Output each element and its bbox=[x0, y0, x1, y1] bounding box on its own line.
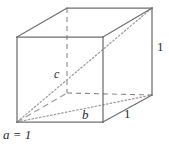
interior-diagonal-group bbox=[17, 93, 67, 122]
edge-top-right-receding bbox=[103, 8, 152, 37]
cuboid-drawing bbox=[0, 0, 169, 148]
hidden-edges-group bbox=[67, 8, 152, 95]
geometry-figure: a = 1 b c 1 1 bbox=[0, 0, 169, 148]
diagonal-front-bottom-left-to-back-bottom-left bbox=[17, 93, 67, 122]
label-bottom-depth: 1 bbox=[124, 107, 131, 120]
label-edge-a: a = 1 bbox=[3, 128, 31, 141]
label-edge-b: b bbox=[82, 108, 89, 121]
label-edge-c: c bbox=[54, 68, 59, 80]
hidden-edge-back-bottom bbox=[67, 93, 152, 95]
label-right-height: 1 bbox=[157, 40, 164, 53]
edge-top-left-receding bbox=[17, 8, 67, 37]
